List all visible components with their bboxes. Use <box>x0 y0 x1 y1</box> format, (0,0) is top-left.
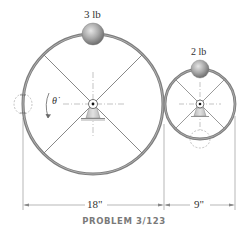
small-diameter-label: 9" <box>194 198 204 210</box>
large-diameter-label: 18" <box>87 198 103 210</box>
small-wheel-mass <box>191 60 209 78</box>
large-wheel-mass-label: 3 lb <box>84 8 101 20</box>
figure-caption: PROBLEM 3/123 <box>0 216 248 226</box>
large-wheel-mass <box>82 23 104 45</box>
angular-rate-label: θ̇ <box>52 95 57 106</box>
small-wheel <box>165 60 235 148</box>
large-wheel <box>14 23 163 174</box>
large-wheel-support <box>81 108 105 121</box>
curved-arrow-icon <box>46 93 51 118</box>
small-wheel-support <box>191 108 209 117</box>
small-wheel-mass-label: 2 lb <box>191 46 206 57</box>
wheels-diagram <box>0 0 248 234</box>
